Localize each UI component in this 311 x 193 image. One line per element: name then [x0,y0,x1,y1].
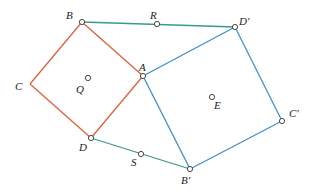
label-Q: Q [76,83,84,95]
point-R [154,21,159,26]
label-D-prime: D′ [238,15,250,27]
geometry-diagram: B R D′ A C Q E C′ D S B′ [0,0,311,193]
label-C-prime: C′ [289,107,299,119]
point-A [140,73,145,78]
label-A: A [138,61,146,73]
label-C: C [15,80,23,92]
segment-Cp-Bp [190,121,282,169]
segment-C-B [30,22,82,84]
diagram-canvas: B R D′ A C Q E C′ D S B′ [0,0,311,193]
segment-Dp-Cp [235,27,282,121]
point-D [88,135,93,140]
point-S [138,151,143,156]
point-Dp [232,24,237,29]
segment-A-Dp [143,27,235,76]
segment-A-D [91,76,143,138]
label-R: R [149,9,157,21]
label-D: D [78,141,87,153]
segment-Bp-A [143,76,190,169]
point-Cp [279,118,284,123]
point-B [79,19,84,24]
point-Q [85,75,90,80]
label-B: B [66,9,73,21]
point-Bp [187,166,192,171]
label-B-prime: B′ [181,174,191,186]
label-S: S [131,156,137,168]
label-E: E [213,99,221,111]
segment-B-A [82,22,143,76]
